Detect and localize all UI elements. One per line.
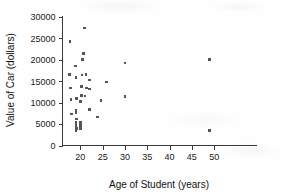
data-point <box>84 95 87 98</box>
data-point <box>88 79 91 82</box>
data-point <box>208 129 211 132</box>
y-axis-title: Value of Car (dollars) <box>5 33 16 127</box>
data-point <box>68 73 71 76</box>
data-point <box>75 76 78 79</box>
data-point <box>75 118 78 121</box>
data-point <box>85 87 88 90</box>
data-point <box>96 116 99 119</box>
y-tick-label: 25000 <box>30 34 55 44</box>
x-tick-label: 45 <box>187 152 197 162</box>
data-point <box>81 58 84 61</box>
x-tick-label: 40 <box>165 152 175 162</box>
data-point <box>82 52 85 55</box>
y-tick-label: 0 <box>50 141 55 151</box>
x-tick-label: 30 <box>120 152 130 162</box>
x-tick-label: 20 <box>75 152 85 162</box>
data-point <box>88 108 91 111</box>
data-point <box>208 58 211 61</box>
data-point <box>70 113 73 116</box>
y-tick-label: 15000 <box>30 77 55 87</box>
data-point <box>75 109 78 112</box>
data-point <box>69 87 72 90</box>
y-axis-ticks: 050001000015000200002500030000 <box>30 12 62 151</box>
data-point <box>75 130 78 133</box>
data-point <box>69 40 72 43</box>
data-point <box>79 101 82 104</box>
y-tick-label: 10000 <box>30 98 55 108</box>
x-tick-label: 35 <box>142 152 152 162</box>
data-point <box>75 97 78 100</box>
data-point <box>75 111 78 114</box>
data-point <box>88 88 91 91</box>
x-tick-label: 25 <box>98 152 108 162</box>
data-point <box>75 121 78 124</box>
data-point <box>124 62 127 65</box>
data-point <box>100 99 103 102</box>
data-point <box>80 85 83 88</box>
data-point <box>83 27 86 30</box>
data-point <box>75 124 78 127</box>
data-point <box>105 81 108 84</box>
scatter-plot-figure: 050001000015000200002500030000 202530354… <box>0 0 295 195</box>
data-point <box>124 95 127 98</box>
y-tick-label: 30000 <box>30 12 55 22</box>
data-point <box>81 74 84 77</box>
data-point <box>79 127 82 130</box>
data-point <box>74 65 77 68</box>
y-tick-label: 5000 <box>35 119 55 129</box>
data-point <box>80 94 83 97</box>
plot-canvas: 050001000015000200002500030000 202530354… <box>0 0 295 195</box>
y-tick-label: 20000 <box>30 55 55 65</box>
data-point <box>70 98 73 101</box>
x-axis-ticks: 20253035404550 <box>75 146 219 162</box>
data-point <box>75 127 78 130</box>
x-axis-title: Age of Student (years) <box>109 179 209 190</box>
x-tick-label: 50 <box>209 152 219 162</box>
data-points-layer <box>68 27 211 133</box>
data-point <box>85 73 88 76</box>
